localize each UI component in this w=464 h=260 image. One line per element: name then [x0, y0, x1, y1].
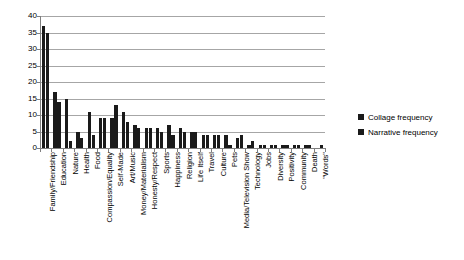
bar: [213, 135, 216, 148]
bar-group: [188, 16, 199, 148]
x-axis-category-label: Travel: [208, 152, 216, 173]
y-axis-tick-label: 5: [3, 128, 37, 136]
bar: [65, 99, 68, 149]
x-axis-category-label: Technology: [254, 152, 262, 190]
y-axis-tick-label: 40: [3, 12, 37, 20]
bar: [126, 122, 129, 148]
x-axis-category-label: Honesty/Respect: [151, 152, 159, 209]
bar: [206, 135, 209, 148]
bar-group: [108, 16, 119, 148]
legend-item-narrative-frequency: Narrative frequency: [358, 127, 462, 137]
bar-group: [131, 16, 142, 148]
bar-group: [165, 16, 176, 148]
plot-area: [40, 16, 325, 148]
bar: [69, 141, 72, 148]
x-axis-category-label: Education: [60, 152, 68, 185]
bar: [156, 128, 159, 148]
x-axis-category-label: Media/Television Show: [243, 152, 251, 228]
x-axis-category-label: Culture: [220, 152, 228, 176]
x-axis-category-label: Positivity: [288, 152, 296, 182]
bar: [240, 135, 243, 148]
bar: [145, 128, 148, 148]
bar: [251, 141, 254, 148]
bar: [46, 33, 49, 149]
x-axis-category-label: Food: [94, 152, 102, 169]
bar: [133, 125, 136, 148]
x-axis-category-label: "Words": [322, 152, 330, 179]
bar: [99, 118, 102, 148]
bar: [122, 112, 125, 148]
x-axis-category-label: Compassion/Equality: [106, 152, 114, 222]
y-axis-tick-label: 10: [3, 111, 37, 119]
legend-swatch-icon: [358, 129, 364, 135]
bar-group: [302, 16, 313, 148]
bar-group: [74, 16, 85, 148]
bar: [217, 135, 220, 148]
bar: [183, 132, 186, 149]
legend-item-collage-frequency: Collage frequency: [358, 112, 462, 122]
bar: [224, 135, 227, 148]
bar: [179, 128, 182, 148]
x-axis-category-label: Art/Music: [129, 152, 137, 183]
x-axis-category-label: Sports: [163, 152, 171, 174]
x-axis-category-labels: Family/FriendshipEducationNatureHealthFo…: [40, 152, 330, 258]
bar: [167, 125, 170, 148]
x-axis-category-label: Religion: [186, 152, 194, 179]
bar: [236, 138, 239, 148]
bar-group: [314, 16, 325, 148]
bar-group: [143, 16, 154, 148]
y-axis-line: [40, 16, 41, 149]
bar-group: [86, 16, 97, 148]
bar: [57, 102, 60, 148]
legend-swatch-icon: [358, 114, 364, 120]
bar-group: [200, 16, 211, 148]
bar: [42, 26, 45, 148]
bar-group: [177, 16, 188, 148]
y-axis-tick-labels: 4035302520151050: [0, 16, 37, 148]
x-axis-category-label: Community: [300, 152, 308, 190]
bar-group: [63, 16, 74, 148]
x-axis-category-label: Money/Materialism: [140, 152, 148, 215]
bar: [76, 132, 79, 149]
bar: [110, 118, 113, 148]
bar: [53, 92, 56, 148]
bar-group: [268, 16, 279, 148]
bar-group: [154, 16, 165, 148]
bar: [149, 128, 152, 148]
bar-group: [97, 16, 108, 148]
y-axis-tick-label: 15: [3, 95, 37, 103]
x-axis-category-label: Nature: [72, 152, 80, 175]
bar-group: [245, 16, 256, 148]
bar-group: [211, 16, 222, 148]
y-axis-tick-label: 30: [3, 45, 37, 53]
bar-group: [291, 16, 302, 148]
x-axis-category-label: Death: [311, 152, 319, 172]
x-axis-category-label: Diversity: [277, 152, 285, 181]
bar: [194, 132, 197, 149]
bar: [171, 135, 174, 148]
x-axis-category-label: Jobs: [265, 152, 273, 168]
bar: [190, 132, 193, 149]
bar: [160, 132, 163, 149]
bar-group: [51, 16, 62, 148]
bar: [88, 112, 91, 148]
y-axis-tick-label: 20: [3, 78, 37, 86]
bar-group: [257, 16, 268, 148]
legend-label: Collage frequency: [368, 113, 432, 122]
x-axis-category-label: Life Itself: [197, 152, 205, 182]
bar-group: [222, 16, 233, 148]
y-axis-tick-label: 0: [3, 144, 37, 152]
y-axis-tick-label: 35: [3, 29, 37, 37]
bar-group: [40, 16, 51, 148]
bar: [114, 105, 117, 148]
bar-group: [120, 16, 131, 148]
y-axis-tick-label: 25: [3, 62, 37, 70]
x-axis-category-label: Happiness: [174, 152, 182, 187]
bar: [103, 118, 106, 148]
bar: [80, 138, 83, 148]
bar-group: [279, 16, 290, 148]
x-axis-category-label: Family/Friendship: [49, 152, 57, 211]
bar: [202, 135, 205, 148]
chart-legend: Collage frequency Narrative frequency: [358, 112, 462, 142]
chart-figure: 4035302520151050 Family/FriendshipEducat…: [0, 0, 464, 260]
